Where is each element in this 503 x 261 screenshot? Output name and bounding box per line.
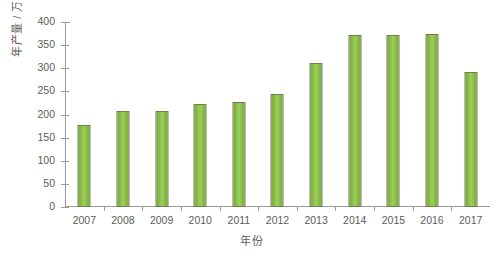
x-axis-tick-label: 2016 bbox=[420, 213, 443, 227]
x-axis-tick-label: 2009 bbox=[150, 213, 173, 227]
x-axis-title: 年份 bbox=[0, 232, 503, 248]
bar-2012[interactable] bbox=[271, 94, 284, 207]
bar-2008[interactable] bbox=[116, 111, 129, 207]
x-axis-tick-label: 2013 bbox=[304, 213, 327, 227]
bar-slot bbox=[374, 22, 413, 207]
bar-2010[interactable] bbox=[194, 104, 207, 207]
bar-slot bbox=[104, 22, 143, 207]
bar-slot bbox=[258, 22, 297, 207]
bar-slot bbox=[297, 22, 336, 207]
bar-slot bbox=[181, 22, 220, 207]
y-axis-tick-label: 350 bbox=[37, 38, 55, 51]
y-axis-tick-label: 150 bbox=[37, 131, 55, 144]
x-axis-tick bbox=[374, 207, 375, 211]
x-axis-tick bbox=[451, 207, 452, 211]
x-axis-tick-label: 2015 bbox=[382, 213, 405, 227]
bars-layer bbox=[65, 22, 490, 207]
bar-2015[interactable] bbox=[387, 35, 400, 207]
x-axis-tick bbox=[220, 207, 221, 211]
x-axis-tick-label: 2008 bbox=[111, 213, 134, 227]
bar-slot bbox=[413, 22, 452, 207]
x-axis-tick bbox=[181, 207, 182, 211]
bar-slot bbox=[142, 22, 181, 207]
x-axis-tick bbox=[142, 207, 143, 211]
y-axis-tick-label: 0 bbox=[49, 200, 55, 213]
x-axis-tick bbox=[297, 207, 298, 211]
bar-slot bbox=[65, 22, 104, 207]
bar-2011[interactable] bbox=[232, 102, 245, 207]
bar-2013[interactable] bbox=[310, 63, 323, 207]
bar-2007[interactable] bbox=[78, 125, 91, 207]
y-axis-tick-label: 100 bbox=[37, 154, 55, 167]
x-axis-tick-label: 2010 bbox=[189, 213, 212, 227]
bar-2009[interactable] bbox=[155, 111, 168, 207]
x-axis-tick-label: 2007 bbox=[73, 213, 96, 227]
bar-chart: 年产量 / 万 t 050100150200250300350400 20072… bbox=[0, 0, 503, 261]
bar-2016[interactable] bbox=[426, 34, 439, 207]
y-axis-tick-label: 50 bbox=[43, 177, 55, 190]
x-axis-tick-label: 2017 bbox=[459, 213, 482, 227]
bar-slot bbox=[335, 22, 374, 207]
y-axis-tick-label: 400 bbox=[37, 15, 55, 28]
y-axis-title: 年产量 / 万 t bbox=[8, 0, 26, 80]
x-axis-tick-label: 2014 bbox=[343, 213, 366, 227]
x-axis-tick bbox=[335, 207, 336, 211]
plot-area: 050100150200250300350400 bbox=[65, 22, 490, 207]
x-axis-tick-label: 2012 bbox=[266, 213, 289, 227]
bar-2014[interactable] bbox=[348, 35, 361, 207]
x-axis-tick bbox=[413, 207, 414, 211]
y-axis-tick: 0 bbox=[61, 207, 69, 208]
y-axis-tick-label: 250 bbox=[37, 84, 55, 97]
x-axis-tick bbox=[258, 207, 259, 211]
bar-slot bbox=[451, 22, 490, 207]
y-axis-tick-label: 200 bbox=[37, 108, 55, 121]
bar-slot bbox=[220, 22, 259, 207]
x-axis-tick-label: 2011 bbox=[228, 213, 251, 227]
bar-2017[interactable] bbox=[464, 72, 477, 207]
x-axis-tick bbox=[104, 207, 105, 211]
y-axis-tick-label: 300 bbox=[37, 61, 55, 74]
